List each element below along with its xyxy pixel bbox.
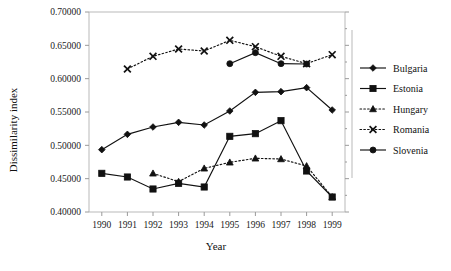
data-point-hungary — [150, 170, 157, 176]
x-axis-title: Year — [206, 240, 227, 252]
legend-item-romania[interactable]: Romania — [360, 124, 430, 135]
data-point-estonia — [278, 118, 284, 124]
series-romania — [124, 37, 336, 72]
data-series-group — [99, 37, 336, 200]
series-line-bulgaria — [102, 88, 332, 150]
legend-label-bulgaria: Bulgaria — [393, 63, 428, 74]
y-tick-label: 0.70000 — [50, 7, 81, 17]
y-axis-title: Dissimilarity index — [7, 87, 19, 172]
data-point-slovenia — [252, 50, 258, 56]
x-tick-label: 1992 — [144, 220, 163, 230]
legend-marker-slovenia — [370, 147, 376, 153]
y-tick-label: 0.50000 — [50, 141, 81, 151]
data-point-bulgaria — [150, 124, 157, 131]
series-slovenia — [227, 50, 310, 67]
x-axis-tick-labels: 1990199119921993199419951996199719981999 — [92, 220, 342, 230]
legend-item-slovenia[interactable]: Slovenia — [360, 145, 429, 156]
series-estonia — [99, 118, 336, 201]
data-point-bulgaria — [175, 119, 182, 126]
data-point-slovenia — [227, 61, 233, 67]
data-point-bulgaria — [124, 131, 131, 138]
x-tick-label: 1996 — [246, 220, 265, 230]
legend-label-slovenia: Slovenia — [393, 145, 429, 156]
y-tick-label: 0.40000 — [50, 207, 81, 217]
x-tick-label: 1997 — [272, 220, 291, 230]
data-point-estonia — [99, 170, 105, 176]
plot-frame — [89, 12, 345, 212]
line-chart: 0.700000.650000.600000.550000.500000.450… — [0, 0, 451, 271]
y-tick-label: 0.60000 — [50, 74, 81, 84]
data-point-bulgaria — [278, 88, 285, 95]
legend-marker-estonia — [370, 85, 376, 91]
x-tick-label: 1991 — [118, 220, 137, 230]
x-tick-label: 1990 — [92, 220, 111, 230]
x-tick-label: 1993 — [169, 220, 188, 230]
legend-label-estonia: Estonia — [393, 83, 424, 94]
data-point-bulgaria — [201, 122, 208, 129]
data-point-estonia — [124, 174, 130, 180]
x-tick-label: 1995 — [220, 220, 239, 230]
legend-marker-bulgaria — [370, 65, 377, 72]
data-point-bulgaria — [99, 146, 106, 153]
series-line-slovenia — [230, 53, 307, 64]
series-bulgaria — [99, 84, 336, 153]
legend-label-romania: Romania — [393, 124, 430, 135]
y-tick-label: 0.55000 — [50, 107, 81, 117]
legend-item-estonia[interactable]: Estonia — [360, 83, 424, 94]
chart-figure: 0.700000.650000.600000.550000.500000.450… — [0, 0, 451, 271]
data-point-slovenia — [278, 61, 284, 67]
legend-label-hungary: Hungary — [393, 104, 428, 115]
data-point-estonia — [201, 184, 207, 190]
x-tick-label: 1999 — [323, 220, 342, 230]
data-point-slovenia — [304, 61, 310, 67]
axis-ticks — [85, 12, 349, 216]
y-axis-tick-labels: 0.700000.650000.600000.550000.500000.450… — [50, 7, 81, 217]
chart-legend: BulgariaEstoniaHungaryRomaniaSlovenia — [352, 30, 430, 178]
x-tick-label: 1998 — [297, 220, 316, 230]
x-tick-label: 1994 — [195, 220, 214, 230]
data-point-estonia — [150, 186, 156, 192]
data-point-estonia — [252, 131, 258, 137]
legend-item-hungary[interactable]: Hungary — [360, 104, 428, 115]
legend-item-bulgaria[interactable]: Bulgaria — [360, 63, 428, 74]
series-hungary — [150, 155, 336, 200]
y-tick-label: 0.45000 — [50, 174, 81, 184]
y-tick-label: 0.65000 — [50, 41, 81, 51]
data-point-estonia — [227, 133, 233, 139]
